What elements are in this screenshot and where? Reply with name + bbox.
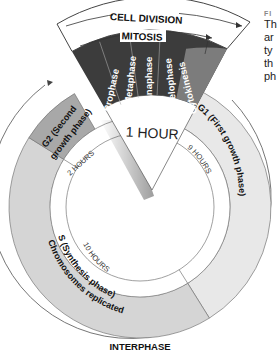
- phase-anaphase: Anaphase: [143, 57, 154, 102]
- figure-label: FI: [264, 10, 278, 17]
- cell-cycle-diagram: CELL DIVISION MITOSIS Prophase Metaphase…: [0, 0, 278, 351]
- interphase-arrowhead: [47, 80, 53, 86]
- caption-line: th: [264, 57, 278, 70]
- caption-line: ty: [264, 44, 278, 57]
- caption-line: ar: [264, 31, 278, 44]
- mitosis-label: MITOSIS: [121, 30, 163, 42]
- mitosis-duration: 1 HOUR: [125, 124, 179, 143]
- figure-caption: FI Th ar ty th ph: [264, 10, 278, 83]
- interphase-label: INTERPHASE: [109, 341, 170, 351]
- caption-line: Th: [264, 18, 278, 31]
- caption-line: ph: [264, 70, 278, 83]
